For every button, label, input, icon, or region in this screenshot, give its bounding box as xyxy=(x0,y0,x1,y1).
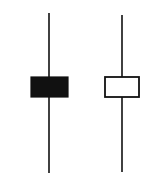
bearish-candle xyxy=(31,13,68,173)
candlestick-svg xyxy=(0,0,164,193)
bullish-candle-body xyxy=(105,77,139,97)
candlestick-diagram xyxy=(0,0,164,193)
bullish-candle xyxy=(105,15,139,172)
bearish-candle-body xyxy=(31,77,68,97)
